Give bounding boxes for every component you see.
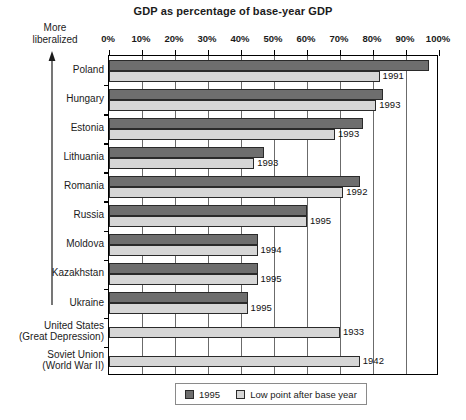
bar-1995 bbox=[109, 292, 248, 303]
chart-container: GDP as percentage of base-year GDP More … bbox=[0, 0, 466, 420]
bar-1995 bbox=[109, 89, 383, 100]
category-label: Lithuania bbox=[6, 151, 108, 163]
bar-1995 bbox=[109, 205, 307, 216]
x-axis-tick-label: 70% bbox=[329, 33, 348, 44]
bar-low-point bbox=[109, 187, 343, 198]
bar-low-point bbox=[109, 158, 254, 169]
category-label-line: United States bbox=[44, 320, 104, 331]
bar-year-label: 1991 bbox=[383, 70, 404, 81]
bar-year-label: 1995 bbox=[251, 302, 272, 313]
bar-year-label: 1993 bbox=[338, 128, 359, 139]
bar-group: 1993 bbox=[109, 143, 437, 172]
x-axis-tick-label: 0% bbox=[101, 33, 115, 44]
x-axis-tick-label: 10% bbox=[131, 33, 150, 44]
category-label-line: Romania bbox=[64, 180, 104, 191]
bar-1995 bbox=[109, 118, 363, 129]
category-label: United States(Great Depression) bbox=[6, 320, 108, 343]
bar-group: 1993 bbox=[109, 85, 437, 114]
x-axis-tick-label: 80% bbox=[362, 33, 381, 44]
bar-group: 1933 bbox=[109, 318, 437, 347]
bar-group: 1994 bbox=[109, 231, 437, 260]
bar-low-point bbox=[109, 129, 335, 140]
category-label: Ukraine bbox=[6, 297, 108, 309]
category-label-line: Kazakhstan bbox=[52, 267, 104, 278]
category-label-line: (Great Depression) bbox=[19, 331, 104, 342]
bar-1995 bbox=[109, 176, 360, 187]
bar-1995 bbox=[109, 60, 429, 71]
category-label: Romania bbox=[6, 180, 108, 192]
category-label: Russia bbox=[6, 209, 108, 221]
x-axis-tick-label: 20% bbox=[164, 33, 183, 44]
bar-group: 1991 bbox=[109, 56, 437, 85]
category-label: Soviet Union(World War II) bbox=[6, 349, 108, 372]
bar-group: 1995 bbox=[109, 260, 437, 289]
legend-item: 1995 bbox=[185, 389, 220, 400]
legend-swatch bbox=[236, 390, 245, 399]
bar-low-point bbox=[109, 356, 360, 367]
legend-label: 1995 bbox=[199, 389, 220, 400]
category-label: Estonia bbox=[6, 122, 108, 134]
bar-group: 1942 bbox=[109, 347, 437, 376]
bar-year-label: 1993 bbox=[379, 99, 400, 110]
bar-group: 1993 bbox=[109, 114, 437, 143]
category-label-line: Moldova bbox=[66, 238, 104, 249]
bar-low-point bbox=[109, 245, 258, 256]
bar-low-point bbox=[109, 274, 258, 285]
category-label: Hungary bbox=[6, 93, 108, 105]
bar-group: 1992 bbox=[109, 172, 437, 201]
bar-year-label: 1942 bbox=[363, 355, 384, 366]
bar-year-label: 1933 bbox=[343, 326, 364, 337]
bar-1995 bbox=[109, 147, 264, 158]
x-axis-tick-label: 100% bbox=[426, 33, 450, 44]
more-liberalized-line1: More bbox=[44, 22, 67, 33]
bar-low-point bbox=[109, 71, 380, 82]
bar-year-label: 1995 bbox=[310, 215, 331, 226]
bar-low-point bbox=[109, 303, 248, 314]
bar-year-label: 1992 bbox=[346, 186, 367, 197]
category-label-line: Ukraine bbox=[70, 297, 104, 308]
category-label-line: Estonia bbox=[71, 122, 104, 133]
bar-1995 bbox=[109, 263, 258, 274]
bar-group: 1995 bbox=[109, 289, 437, 318]
x-axis-tick-label: 60% bbox=[296, 33, 315, 44]
x-axis-tick bbox=[439, 50, 440, 56]
bar-low-point bbox=[109, 100, 376, 111]
x-axis-tick-label: 40% bbox=[230, 33, 249, 44]
x-axis-tick-label: 90% bbox=[395, 33, 414, 44]
category-label: Moldova bbox=[6, 238, 108, 250]
y-axis-category-labels: PolandHungaryEstoniaLithuaniaRomaniaRuss… bbox=[0, 55, 108, 375]
category-label-line: Soviet Union bbox=[47, 349, 104, 360]
legend-swatch bbox=[185, 390, 194, 399]
bar-1995 bbox=[109, 234, 258, 245]
bar-low-point bbox=[109, 327, 340, 338]
bar-year-label: 1994 bbox=[261, 244, 282, 255]
bar-year-label: 1993 bbox=[257, 157, 278, 168]
category-label-line: Poland bbox=[73, 64, 104, 75]
chart-title: GDP as percentage of base-year GDP bbox=[0, 5, 466, 17]
bar-low-point bbox=[109, 216, 307, 227]
category-label: Kazakhstan bbox=[6, 267, 108, 279]
bar-year-label: 1995 bbox=[261, 273, 282, 284]
x-axis-tick-label: 30% bbox=[197, 33, 216, 44]
legend-label: Low point after base year bbox=[250, 389, 357, 400]
category-label-line: Lithuania bbox=[63, 151, 104, 162]
legend-item: Low point after base year bbox=[236, 389, 357, 400]
plot-area: 1991199319931993199219951994199519951933… bbox=[108, 55, 438, 375]
category-label-line: Hungary bbox=[66, 93, 104, 104]
chart-legend: 1995Low point after base year bbox=[175, 383, 367, 405]
category-label-line: (World War II) bbox=[42, 360, 104, 371]
x-axis-tick-label: 50% bbox=[263, 33, 282, 44]
x-axis-tick-labels: 0%10%20%30%40%50%60%70%80%90%100% bbox=[0, 33, 466, 47]
bar-group: 1995 bbox=[109, 201, 437, 230]
category-label: Poland bbox=[6, 64, 108, 76]
category-label-line: Russia bbox=[73, 209, 104, 220]
